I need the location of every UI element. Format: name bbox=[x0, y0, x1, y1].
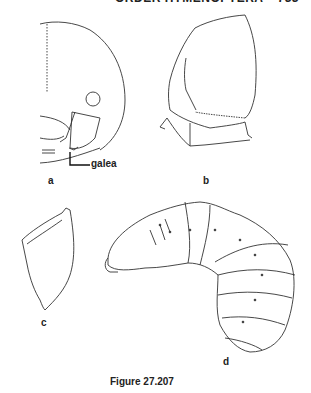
figure-caption: Figure 27.207 bbox=[110, 376, 174, 387]
panel-b-label: b bbox=[203, 175, 209, 186]
panel-a-label: a bbox=[48, 175, 54, 186]
panel-c-mandible-drawing bbox=[22, 208, 74, 310]
panel-c-label: c bbox=[41, 317, 47, 328]
panel-d-label: d bbox=[223, 356, 229, 367]
panel-a-head-drawing bbox=[40, 22, 125, 165]
figure-drawings bbox=[0, 0, 311, 393]
panel-b-head-drawing bbox=[160, 15, 256, 146]
panel-d-larva-drawing bbox=[105, 202, 295, 352]
galea-callout-label: galea bbox=[91, 158, 117, 169]
